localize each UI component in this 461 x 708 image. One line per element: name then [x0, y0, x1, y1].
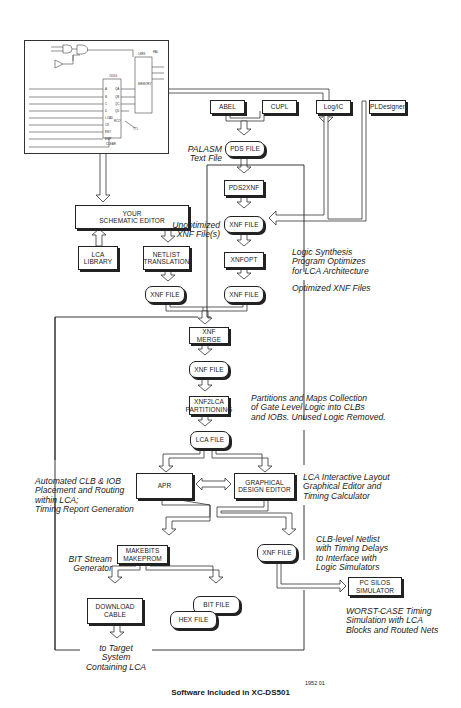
xnf2lca-node: XNF2LCA PARTITIONING — [189, 396, 229, 415]
makebits-node: MAKEBITS MAKEPROM — [117, 545, 168, 564]
svg-text:MEMORY: MEMORY — [138, 82, 151, 86]
svg-text:QA: QA — [115, 87, 119, 91]
svg-text:CK: CK — [105, 123, 109, 127]
hex-file-node: HEX FILE — [170, 611, 217, 629]
logic-synthesis-note: Logic Synthesis Program Optimizes for LC… — [292, 248, 422, 276]
schematic-drawing: 74161 AQA BQB CQC DQD LOADRCO CK ENT ENP… — [25, 41, 168, 153]
xnf-file-optimized: XNF FILE — [224, 286, 264, 303]
svg-text:ENP: ENP — [105, 137, 111, 141]
svg-text:A: A — [105, 87, 107, 91]
xnf-merge-node: XNF MERGE — [189, 327, 229, 344]
bitstream-note: BIT Stream Generator — [55, 555, 112, 574]
svg-text:ENT: ENT — [105, 130, 111, 134]
svg-text:RCO: RCO — [114, 119, 121, 123]
partitions-note: Partitions and Maps Collection of Gate L… — [251, 394, 431, 422]
lca-library-node: LCA LIBRARY — [78, 246, 118, 270]
automated-note: Automated CLB & IOB Placement and Routin… — [35, 477, 145, 514]
palasm-note: PALASM Text File — [170, 145, 222, 164]
graphical-design-editor-node: GRAPHICAL DESIGN EDITOR — [234, 473, 295, 499]
cupl-box: CUPL — [262, 100, 297, 114]
abel-box: ABEL — [210, 100, 245, 114]
optimized-note: Optimized XNF Files — [292, 284, 422, 293]
pds-file-node: PDS FILE — [225, 141, 265, 157]
schematic-inset: 74161 AQA BQB CQC DQD LOADRCO CK ENT ENP… — [24, 40, 169, 154]
download-cable-node: DOWNLOAD CABLE — [87, 598, 143, 624]
netlist-translation-node: NETLIST TRANSLATION — [143, 246, 190, 270]
svg-text:TTL: TTL — [133, 127, 139, 131]
pds2xnf-node: PDS2XNF — [224, 180, 264, 196]
interactive-layout-note: LCA Interactive Layout Graphical Editor … — [303, 473, 413, 501]
unoptimized-note: Unoptimized XNF File(s) — [142, 221, 220, 240]
svg-text:C: C — [105, 102, 108, 106]
svg-text:D: D — [105, 109, 108, 113]
svg-text:QC: QC — [115, 102, 120, 106]
xnf-file-netlist: XNF FILE — [145, 286, 185, 303]
figure-caption: Software Included in XC-DS501 — [0, 688, 461, 697]
svg-text:QB: QB — [115, 95, 119, 99]
svg-text:74161: 74161 — [109, 74, 118, 78]
lca-file-node: LCA FILE — [190, 431, 230, 449]
figure-number: 1952 01 — [305, 680, 325, 686]
svg-text:PAL: PAL — [153, 50, 159, 54]
pc-silos-node: PC SILOS SIMULATOR — [348, 577, 402, 596]
svg-text:B: B — [105, 95, 107, 99]
logic-box: Log/iC — [316, 100, 351, 114]
xnf-file-unoptimized: XNF FILE — [224, 216, 264, 233]
svg-text:16R8: 16R8 — [138, 52, 146, 56]
target-system-note: to Target System Containing LCA — [80, 644, 152, 672]
clb-netlist-note: CLB-level Netlist with Timing Delays to … — [316, 535, 426, 572]
svg-text:LOAD: LOAD — [105, 116, 114, 120]
xnf-file-merged: XNF FILE — [189, 361, 229, 378]
pldesigner-box: PLDesigner — [369, 100, 406, 114]
xnfopt-node: XNFOPT — [224, 252, 264, 268]
xnf-file-output: XNF FILE — [257, 544, 297, 562]
svg-text:CLEAR: CLEAR — [106, 142, 117, 146]
worst-case-note: WORST-CASE Timing Simulation with LCA Bl… — [346, 607, 456, 635]
svg-text:QD: QD — [115, 109, 120, 113]
